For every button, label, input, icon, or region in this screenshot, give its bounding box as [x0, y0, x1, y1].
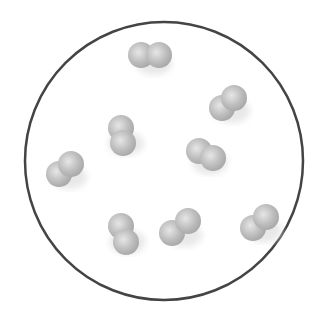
- atom: [200, 145, 226, 171]
- diatomic-molecule: [240, 204, 282, 243]
- diatomic-molecule: [108, 213, 146, 255]
- molecules-group: [46, 42, 282, 255]
- diagram-canvas: [0, 0, 319, 318]
- atom: [58, 151, 84, 177]
- atom: [113, 229, 139, 255]
- diatomic-molecule: [159, 208, 202, 247]
- diatomic-molecule: [128, 42, 172, 75]
- atom: [175, 208, 201, 234]
- diatomic-molecule: [186, 138, 228, 175]
- atom: [253, 204, 279, 230]
- atom: [221, 85, 247, 111]
- diatomic-molecule: [209, 85, 250, 123]
- atom: [110, 130, 136, 156]
- diatomic-molecule: [46, 151, 87, 189]
- atom: [146, 42, 172, 68]
- diatomic-molecule: [108, 115, 144, 156]
